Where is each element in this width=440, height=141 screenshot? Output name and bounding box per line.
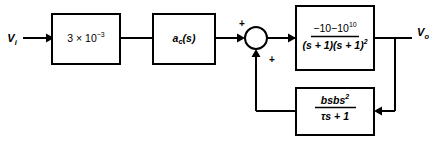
compensator-block-label: ac(s) bbox=[173, 32, 196, 46]
summing-junction bbox=[245, 27, 267, 49]
arrowhead-sum-input bbox=[237, 34, 245, 43]
output-signal-label: Vo bbox=[417, 26, 429, 41]
arrowhead-plant-input bbox=[288, 34, 296, 43]
block-diagram-canvas: 3 × 10−3 ac(s) −10−1010 (s + 1)(s + 1)2 … bbox=[0, 0, 440, 141]
arrowhead-sum-feedback-input bbox=[252, 49, 261, 57]
output-subscript: o bbox=[424, 32, 429, 41]
summing-junction-sign-top: + bbox=[239, 18, 245, 29]
gain-exponent: −3 bbox=[97, 31, 105, 38]
gain-mantissa: 3 × 10 bbox=[67, 32, 97, 44]
arrowhead-feedback-input bbox=[374, 107, 382, 116]
plant-denominator-exponent: 2 bbox=[363, 38, 368, 45]
plant-denominator: (s + 1)(s + 1)2 bbox=[302, 38, 367, 51]
input-subscript: i bbox=[15, 38, 18, 47]
input-signal-label: Vi bbox=[7, 32, 17, 47]
compensator-argument: (s) bbox=[183, 32, 196, 44]
feedback-numerator: bsbs2 bbox=[321, 93, 350, 106]
feedback-denominator: τs + 1 bbox=[321, 110, 349, 122]
feedback-numerator-exponent: 2 bbox=[344, 93, 349, 100]
summing-junction-sign-bottom: + bbox=[269, 54, 275, 65]
plant-numerator-exponent: 10 bbox=[349, 21, 357, 28]
block-diagram-figure: 3 × 10−3 ac(s) −10−1010 (s + 1)(s + 1)2 … bbox=[0, 0, 440, 141]
